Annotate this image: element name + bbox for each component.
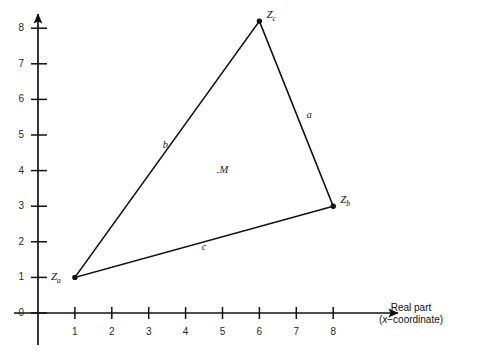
y-tick-label-2: 2 xyxy=(18,237,24,247)
plot-canvas xyxy=(0,0,481,352)
vertex-label-sub-Zc: c xyxy=(273,14,276,23)
x-tick-label-4: 4 xyxy=(183,327,189,337)
vertex-dot-Za xyxy=(72,275,77,280)
vertex-label-sub-Zb: b xyxy=(346,199,350,208)
y-tick-label-7: 7 xyxy=(18,59,24,69)
vertex-dot-Zb xyxy=(331,204,336,209)
edge-label-b: b xyxy=(163,140,168,151)
vertex-label-Zc: Zc xyxy=(266,9,275,23)
x-axis-title: Real part (x−coordinate) xyxy=(379,303,443,325)
annotation-M: .M xyxy=(217,164,228,175)
y-tick-label-4: 4 xyxy=(18,166,24,176)
triangle-shape xyxy=(75,21,333,277)
y-tick-label-6: 6 xyxy=(18,94,24,104)
vertex-label-Za: Za xyxy=(51,271,61,285)
y-tick-label-5: 5 xyxy=(18,130,24,140)
x-axis-title-line2: (x−coordinate) xyxy=(379,315,443,325)
edge-label-a: a xyxy=(307,110,312,121)
x-tick-label-7: 7 xyxy=(294,327,300,337)
x-tick-label-1: 1 xyxy=(72,327,78,337)
vertex-label-Zb: Zb xyxy=(340,194,350,208)
vertex-dot-Zc xyxy=(257,18,262,23)
x-axis-title-line1: Real part xyxy=(379,303,443,313)
axis-lines xyxy=(14,14,398,345)
y-axis-ticks xyxy=(31,28,47,313)
y-tick-label-8: 8 xyxy=(18,23,24,33)
vertex-label-sub-Za: a xyxy=(57,277,61,286)
x-tick-label-5: 5 xyxy=(220,327,226,337)
x-tick-label-3: 3 xyxy=(146,327,152,337)
complex-plane-figure: 12345678 012345678 ZaZbZc abc .M Real pa… xyxy=(0,0,481,352)
x-tick-label-6: 6 xyxy=(257,327,263,337)
y-tick-label-3: 3 xyxy=(18,201,24,211)
x-tick-label-8: 8 xyxy=(330,327,336,337)
x-axis-title-suffix: −coordinate) xyxy=(387,314,443,325)
y-tick-label-0: 0 xyxy=(18,308,24,318)
x-tick-label-2: 2 xyxy=(109,327,115,337)
edge-label-c: c xyxy=(202,242,207,253)
y-tick-label-1: 1 xyxy=(18,272,24,282)
